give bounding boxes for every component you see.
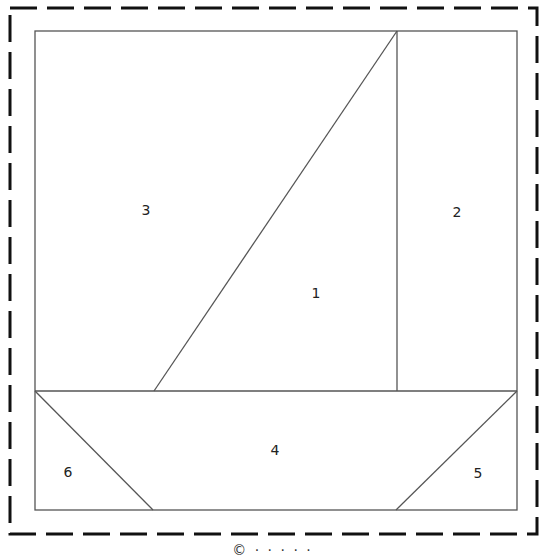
piece-label-6: 6 bbox=[64, 465, 73, 479]
piece-label-3: 3 bbox=[142, 203, 151, 217]
piece-label-2: 2 bbox=[453, 205, 462, 219]
block-outline bbox=[35, 31, 517, 510]
hull-left-diagonal-line bbox=[35, 391, 153, 510]
piece-label-5: 5 bbox=[474, 466, 483, 480]
piece-label-1: 1 bbox=[312, 286, 321, 300]
sail-diagonal-line bbox=[154, 31, 397, 391]
copyright-caption: © · · · · · bbox=[0, 542, 545, 558]
hull-right-diagonal-line bbox=[396, 391, 517, 510]
piece-label-4: 4 bbox=[271, 443, 280, 457]
